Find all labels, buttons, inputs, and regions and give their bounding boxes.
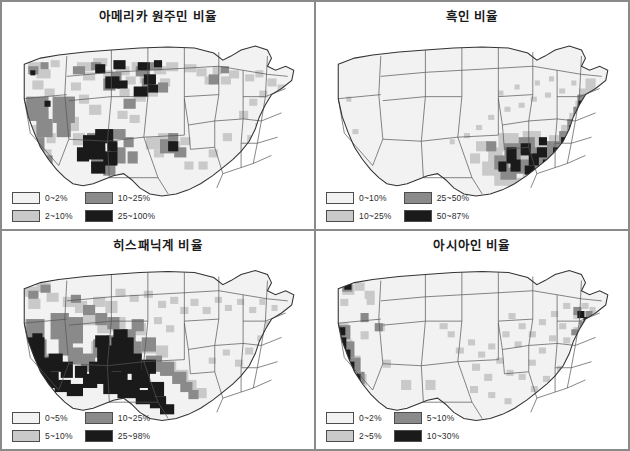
legend-swatch-class2 bbox=[326, 430, 354, 442]
legend-label-class1: 0~5% bbox=[45, 413, 68, 423]
legend-label-class1: 0~10% bbox=[359, 193, 387, 203]
legend-item: 50~87% bbox=[404, 208, 470, 223]
legend-swatch-class2 bbox=[12, 210, 40, 222]
legend-item: 25~50% bbox=[404, 190, 470, 205]
legend-label-class4: 10~30% bbox=[427, 431, 460, 441]
legend-label-class4: 25~98% bbox=[118, 431, 151, 441]
legend-label-class2: 2~5% bbox=[359, 431, 382, 441]
legend-label-class3: 10~25% bbox=[118, 413, 151, 423]
legend-label-class2: 5~10% bbox=[45, 431, 73, 441]
panel-title-asian: 아시아인 비율 bbox=[316, 235, 628, 254]
legend-label-class2: 10~25% bbox=[359, 211, 392, 221]
legend-item: 10~25% bbox=[85, 410, 151, 425]
legend-swatch-class4 bbox=[85, 430, 113, 442]
legend-item: 5~10% bbox=[394, 410, 460, 425]
legend-swatch-class3 bbox=[85, 192, 113, 204]
legend-item: 0~5% bbox=[12, 410, 73, 425]
legend-item: 5~10% bbox=[12, 428, 73, 443]
panel-black: 흑인 비율 bbox=[315, 0, 630, 230]
legend-label-class3: 5~10% bbox=[427, 413, 455, 423]
legend-swatch-class4 bbox=[85, 210, 113, 222]
legend-hispanic: 0~5% 10~25% 5~10% 25~98% bbox=[12, 410, 150, 443]
legend-swatch-class4 bbox=[394, 430, 422, 442]
panel-asian: 아시아인 비율 bbox=[315, 230, 630, 451]
legend-swatch-class2 bbox=[12, 430, 40, 442]
legend-swatch-class3 bbox=[85, 412, 113, 424]
legend-swatch-class4 bbox=[404, 210, 432, 222]
legend-swatch-class1 bbox=[326, 192, 354, 204]
legend-label-class1: 0~2% bbox=[359, 413, 382, 423]
legend-swatch-class2 bbox=[326, 210, 354, 222]
legend-label-class2: 2~10% bbox=[45, 211, 73, 221]
panel-hispanic: 히스패닉계 비율 bbox=[0, 230, 315, 451]
panel-title-hispanic: 히스패닉계 비율 bbox=[2, 235, 314, 254]
legend-item: 2~5% bbox=[326, 428, 382, 443]
panel-title-native-american: 아메리카 원주민 비율 bbox=[2, 6, 314, 25]
legend-item: 25~100% bbox=[85, 208, 156, 223]
legend-item: 0~10% bbox=[326, 190, 392, 205]
legend-item: 0~2% bbox=[326, 410, 382, 425]
legend-swatch-class1 bbox=[326, 412, 354, 424]
legend-item: 2~10% bbox=[12, 208, 73, 223]
legend-item: 10~25% bbox=[326, 208, 392, 223]
legend-native-american: 0~2% 10~25% 2~10% 25~100% bbox=[12, 190, 155, 223]
legend-item: 0~2% bbox=[12, 190, 73, 205]
legend-black: 0~10% 25~50% 10~25% 50~87% bbox=[326, 190, 469, 223]
four-panel-choropleth-figure: 아메리카 원주민 비율 bbox=[0, 0, 630, 451]
legend-label-class1: 0~2% bbox=[45, 193, 68, 203]
legend-item: 10~30% bbox=[394, 428, 460, 443]
legend-item: 10~25% bbox=[85, 190, 156, 205]
legend-swatch-class1 bbox=[12, 412, 40, 424]
legend-swatch-class1 bbox=[12, 192, 40, 204]
panel-title-black: 흑인 비율 bbox=[316, 6, 628, 25]
legend-asian: 0~2% 5~10% 2~5% 10~30% bbox=[326, 410, 459, 443]
legend-swatch-class3 bbox=[404, 192, 432, 204]
legend-label-class3: 10~25% bbox=[118, 193, 151, 203]
legend-label-class3: 25~50% bbox=[437, 193, 470, 203]
legend-label-class4: 25~100% bbox=[118, 211, 156, 221]
legend-label-class4: 50~87% bbox=[437, 211, 470, 221]
legend-item: 25~98% bbox=[85, 428, 151, 443]
panel-native-american: 아메리카 원주민 비율 bbox=[0, 0, 315, 230]
legend-swatch-class3 bbox=[394, 412, 422, 424]
